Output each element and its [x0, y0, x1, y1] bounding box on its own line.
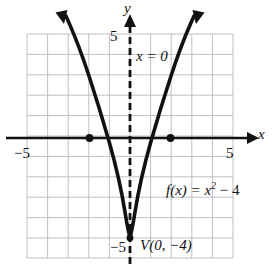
parabola-left-arrow-icon [56, 10, 68, 24]
parabola-right-arrow-icon [193, 10, 205, 24]
coordinate-plane-svg [0, 0, 276, 267]
axis-of-symmetry-label: x = 0 [136, 49, 168, 64]
y-tick-label-minus-5: −5 [110, 240, 126, 255]
x-tick-label-minus-5: −5 [14, 146, 30, 161]
function-equation-suffix: − 4 [216, 182, 239, 198]
x-axis-label: x [258, 127, 265, 142]
vertex-point [127, 235, 134, 242]
y-tick-label-5: 5 [110, 29, 118, 44]
function-equation-prefix: f(x) = x [166, 182, 211, 198]
x-axis [6, 132, 259, 144]
y-axis-label: y [124, 1, 131, 16]
root-point-positive-two [167, 134, 175, 142]
y-axis-axis-of-symmetry [124, 14, 136, 267]
parabola-graph-figure: y x 5 −5 −5 5 x = 0 f(x) = x2 − 4 V(0, −… [0, 0, 276, 267]
root-point-negative-two [86, 134, 94, 142]
x-tick-label-5: 5 [226, 146, 234, 161]
vertex-label: V(0, −4) [140, 238, 192, 253]
function-equation-label: f(x) = x2 − 4 [166, 181, 240, 198]
